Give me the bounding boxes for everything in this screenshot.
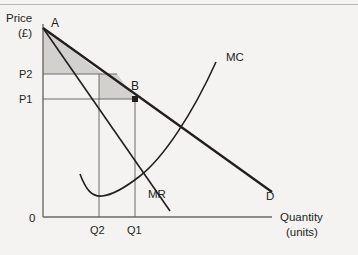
x-tick-label-q2: Q2: [90, 224, 105, 236]
point-label-a: A: [51, 16, 59, 30]
point-b-marker: [132, 96, 138, 102]
x-axis-title-line2: (units): [286, 226, 318, 238]
curve-label-mr: MR: [148, 188, 166, 200]
chart-canvas: Price (£) Quantity (units) 0 P2 P1 Q2 Q1…: [0, 0, 358, 255]
y-axis-title-line2: (£): [18, 27, 32, 39]
x-axis-title-line1: Quantity: [280, 211, 323, 223]
economics-diagram-figure: Price (£) Quantity (units) 0 P2 P1 Q2 Q1…: [0, 0, 358, 255]
y-axis-title-line1: Price: [6, 12, 32, 24]
point-label-b: B: [131, 79, 139, 93]
marginal-revenue-line: [43, 28, 170, 211]
shaded-region-lower: [99, 74, 135, 99]
curve-label-d: D: [266, 190, 274, 202]
origin-label: 0: [29, 212, 35, 224]
x-tick-label-q1: Q1: [127, 224, 142, 236]
y-tick-label-p2: P2: [19, 68, 32, 80]
point-markers-group: [132, 96, 138, 102]
y-tick-label-p1: P1: [19, 93, 32, 105]
curve-label-mc: MC: [226, 51, 244, 63]
